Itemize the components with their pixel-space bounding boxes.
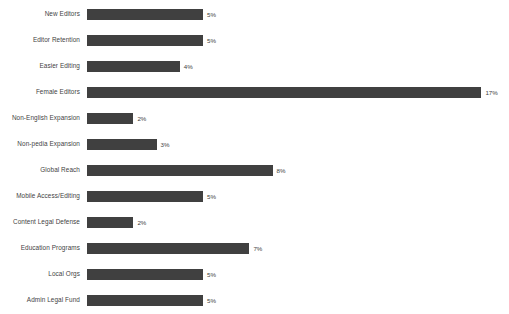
bar — [87, 191, 203, 202]
bar-row: Local Orgs5% — [0, 261, 509, 287]
bar-value-label: 5% — [207, 35, 216, 46]
bar — [87, 217, 133, 228]
bar-row: Global Reach8% — [0, 157, 509, 183]
bar-track: 8% — [87, 157, 286, 183]
bar-row: Editor Retention5% — [0, 27, 509, 53]
bar — [87, 61, 180, 72]
bar — [87, 35, 203, 46]
bar — [87, 87, 481, 98]
bar-value-label: 4% — [184, 61, 193, 72]
category-label: Editor Retention — [0, 27, 80, 53]
bar-track: 7% — [87, 235, 262, 261]
category-label: Non-English Expansion — [0, 105, 80, 131]
category-label: Admin Legal Fund — [0, 287, 80, 313]
bar-row: New Editors5% — [0, 1, 509, 27]
bar-value-label: 5% — [207, 269, 216, 280]
bar-row: Admin Legal Fund5% — [0, 287, 509, 313]
bar-row: Education Programs7% — [0, 235, 509, 261]
bar-track: 5% — [87, 1, 216, 27]
category-label: Education Programs — [0, 235, 80, 261]
bar-value-label: 17% — [485, 87, 497, 98]
bar — [87, 295, 203, 306]
category-label: Easier Editing — [0, 53, 80, 79]
bar-track: 5% — [87, 287, 216, 313]
bar-row: Mobile Access/Editing5% — [0, 183, 509, 209]
category-label: Content Legal Defense — [0, 209, 80, 235]
bar-track: 4% — [87, 53, 193, 79]
bar-track: 3% — [87, 131, 170, 157]
bar-value-label: 5% — [207, 295, 216, 306]
bar — [87, 269, 203, 280]
bar-value-label: 8% — [277, 165, 286, 176]
bar-value-label: 2% — [137, 217, 146, 228]
category-label: Local Orgs — [0, 261, 80, 287]
bar — [87, 243, 249, 254]
bar-row: Non-pedia Expansion3% — [0, 131, 509, 157]
bar-track: 2% — [87, 105, 146, 131]
category-label: Female Editors — [0, 79, 80, 105]
bar-track: 17% — [87, 79, 498, 105]
bar-track: 5% — [87, 27, 216, 53]
bar-track: 2% — [87, 209, 146, 235]
bar-row: Female Editors17% — [0, 79, 509, 105]
bar-value-label: 5% — [207, 9, 216, 20]
bar-value-label: 7% — [253, 243, 262, 254]
horizontal-bar-chart: New Editors5%Editor Retention5%Easier Ed… — [0, 0, 509, 314]
bar-row: Non-English Expansion2% — [0, 105, 509, 131]
bar-value-label: 3% — [161, 139, 170, 150]
bar — [87, 139, 157, 150]
bar-value-label: 5% — [207, 191, 216, 202]
category-label: Mobile Access/Editing — [0, 183, 80, 209]
bar-track: 5% — [87, 183, 216, 209]
category-label: Global Reach — [0, 157, 80, 183]
category-label: New Editors — [0, 1, 80, 27]
bar-row: Easier Editing4% — [0, 53, 509, 79]
bar-track: 5% — [87, 261, 216, 287]
bar-row: Content Legal Defense2% — [0, 209, 509, 235]
bar — [87, 165, 273, 176]
bar-value-label: 2% — [137, 113, 146, 124]
bar — [87, 9, 203, 20]
bar — [87, 113, 133, 124]
category-label: Non-pedia Expansion — [0, 131, 80, 157]
bar-rows-container: New Editors5%Editor Retention5%Easier Ed… — [0, 0, 509, 314]
